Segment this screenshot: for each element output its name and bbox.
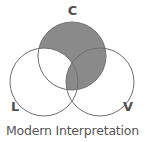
- venn-label-bottom-right-v: V: [123, 100, 133, 113]
- logo-mark: C L V Modern Interpretation: [0, 0, 145, 142]
- logo-tagline: Modern Interpretation: [0, 124, 145, 138]
- venn-label-bottom-left-l: L: [11, 100, 19, 113]
- venn-label-top-c: C: [0, 4, 145, 17]
